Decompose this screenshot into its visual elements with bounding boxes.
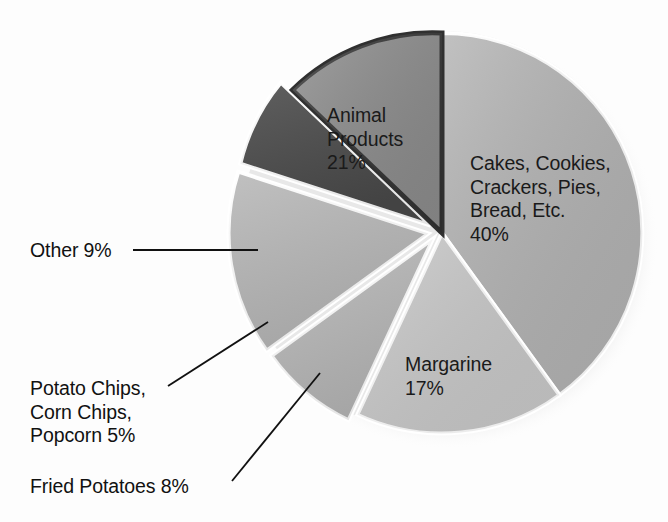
slice-label-margarine: Margarine 17% [405,353,492,400]
leader-line-potato-chips [168,322,268,386]
slice-label-fried-potatoes: Fried Potatoes 8% [30,475,189,499]
pie-chart-figure: Animal Products 21% Cakes, Cookies, Crac… [0,0,668,522]
slice-label-animal-products: Animal Products 21% [327,104,403,175]
leader-line-fried-potatoes [232,373,320,481]
slice-label-potato-chips: Potato Chips, Corn Chips, Popcorn 5% [30,377,146,448]
slice-label-other: Other 9% [30,239,112,263]
slice-label-cakes: Cakes, Cookies, Crackers, Pies, Bread, E… [470,152,610,246]
